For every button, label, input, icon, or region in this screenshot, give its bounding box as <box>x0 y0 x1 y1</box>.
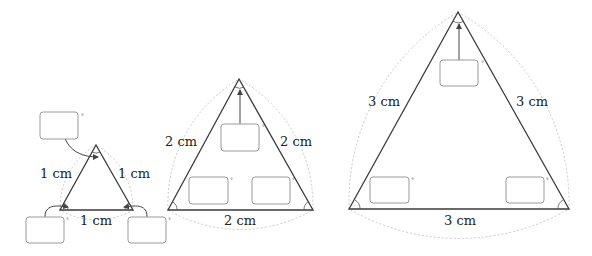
degree-symbol: ° <box>81 112 84 119</box>
angle-input-right[interactable] <box>506 177 544 203</box>
angle-input-right[interactable] <box>252 177 290 204</box>
connector-left <box>45 206 68 217</box>
side-label-bottom: 1 cm <box>80 213 112 228</box>
angle-mark-top <box>92 152 100 153</box>
angle-mark-left <box>173 202 177 210</box>
degree-symbol: ° <box>262 123 265 130</box>
triangle-large: ° ° ° 3 cm 3 cm 3 cm <box>349 12 569 238</box>
degree-symbol: ° <box>411 176 414 183</box>
side-label-right: 3 cm <box>516 94 548 109</box>
triangle-small: ° ° ° 1 cm 1 cm 1 cm <box>26 112 171 243</box>
triangle-medium: ° ° ° 2 cm 2 cm 2 cm <box>165 79 313 229</box>
angle-mark-top <box>453 21 464 23</box>
side-label-left: 3 cm <box>368 94 400 109</box>
side-label-bottom: 3 cm <box>444 213 476 228</box>
side-label-left: 2 cm <box>165 134 197 149</box>
side-label-bottom: 2 cm <box>224 213 256 228</box>
angle-input-top[interactable] <box>440 60 478 86</box>
angle-mark-left <box>355 200 360 209</box>
degree-symbol: ° <box>168 216 171 223</box>
angle-input-top[interactable] <box>221 124 259 151</box>
side-label-right: 1 cm <box>118 166 150 181</box>
connector-right <box>124 206 147 217</box>
angle-input-left[interactable] <box>26 217 64 243</box>
angle-input-right[interactable] <box>128 217 166 243</box>
degree-symbol: ° <box>292 176 295 183</box>
degree-symbol: ° <box>546 176 549 183</box>
angle-mark-right <box>304 202 308 210</box>
angle-mark-right <box>558 200 563 209</box>
angle-input-left[interactable] <box>370 177 409 203</box>
angle-mark-top <box>235 87 244 88</box>
angle-input-top[interactable] <box>40 112 78 139</box>
degree-symbol: ° <box>66 216 69 223</box>
degree-symbol: ° <box>230 176 233 183</box>
degree-symbol: ° <box>481 59 484 66</box>
triangles-diagram: ° ° ° 1 cm 1 cm 1 cm ° ° ° 2 cm 2 cm 2 c… <box>0 0 592 256</box>
angle-input-left[interactable] <box>189 177 228 204</box>
side-label-left: 1 cm <box>40 166 72 181</box>
side-label-right: 2 cm <box>280 134 312 149</box>
dotted-arc-small <box>60 145 133 220</box>
